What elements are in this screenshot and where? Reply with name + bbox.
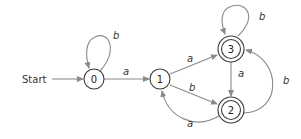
start-label: Start [22,74,47,85]
state-1: 1 [150,69,170,89]
edge-1-3-a: a [170,53,217,74]
edge-label: b [283,75,289,86]
state-label: 3 [228,44,234,55]
edge-3-2-a: a [231,62,244,96]
edge-1-2-b: b [170,82,217,104]
state-label: 0 [91,74,97,85]
edge-0-0-b: b [87,30,120,71]
edge-2-1-a: a [162,91,219,129]
automaton-diagram: Start b a a b b a b a 0 [0,0,301,139]
edge-label: a [123,66,129,77]
state-label: 2 [228,105,234,116]
edge-label: a [187,118,193,129]
state-label: 1 [157,74,163,85]
state-0: 0 [84,69,104,89]
edge-3-3-b: b [222,5,265,36]
edge-label: a [187,53,193,64]
edge-label: b [189,82,195,93]
edge-label: a [238,68,244,79]
edge-label: b [259,11,265,22]
edge-2-3-b: b [244,50,289,113]
state-3-accepting: 3 [218,36,244,62]
edge-label: b [113,30,119,41]
start-arrow: Start [22,74,83,85]
state-2-accepting: 2 [218,97,244,123]
edge-0-1-a: a [104,66,149,79]
